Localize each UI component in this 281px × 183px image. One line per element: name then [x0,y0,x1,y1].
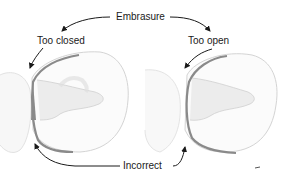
tooth-too-closed [31,52,128,152]
arrow-too-closed [30,48,43,68]
label-incorrect: Incorrect [123,161,162,171]
label-too-open: Too open [188,36,229,46]
tooth-too-open [185,54,277,153]
arrow-embrasure-left [62,17,110,31]
embrasure-diagram [0,0,281,183]
adjacent-tooth-right [145,70,180,152]
label-too-closed: Too closed [37,36,85,46]
arrow-embrasure-right [170,17,210,31]
adjacent-tooth-left [0,73,31,153]
label-embrasure: Embrasure [116,12,165,22]
arrow-incorrect-right [173,147,185,166]
